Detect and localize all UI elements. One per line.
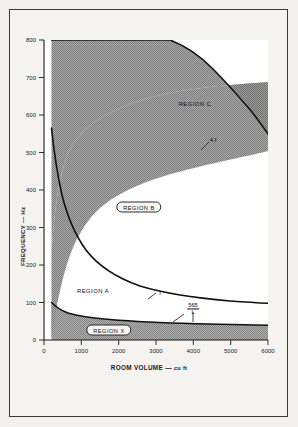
curve-annotation-565-over-L: 565 L	[187, 302, 199, 315]
xtick-label-3000: 3000	[149, 348, 162, 354]
y-axis-ticks	[39, 40, 44, 340]
ytick-label-0: 0	[18, 337, 36, 343]
xtick-label-2000: 2000	[112, 348, 125, 354]
ytick-label-100: 100	[18, 300, 36, 306]
xtick-label-5000: 5000	[224, 348, 237, 354]
curve-annotation-f: f	[159, 290, 161, 296]
ytick-label-800: 800	[18, 37, 36, 43]
x-axis-ticks	[44, 340, 268, 345]
y-axis-title-wrapper: FREQUENCY — Hz	[6, 160, 20, 270]
region-label-c: REGION C	[179, 101, 212, 107]
x-axis-title-unit: cu ft	[174, 365, 187, 371]
curve-annotation-4f: 4 f	[210, 137, 217, 143]
figure-container: 800 700 600 500 400 300 200 100 0 0 1000…	[0, 0, 298, 427]
chart-plot-svg	[0, 0, 298, 427]
xtick-label-6000: 6000	[261, 348, 274, 354]
xtick-label-4000: 4000	[187, 348, 200, 354]
xtick-label-0: 0	[42, 348, 45, 354]
fraction-numerator: 565	[187, 302, 199, 309]
x-axis-title-main: ROOM VOLUME —	[111, 364, 174, 371]
ytick-label-500: 500	[18, 150, 36, 156]
x-axis-title: ROOM VOLUME — cu ft	[0, 364, 298, 371]
region-label-b: REGION B	[116, 202, 161, 213]
ytick-label-600: 600	[18, 112, 36, 118]
region-label-a: REGION A	[77, 288, 109, 294]
y-axis-title: FREQUENCY — Hz	[19, 207, 26, 266]
ytick-label-700: 700	[18, 75, 36, 81]
ytick-label-400: 400	[18, 187, 36, 193]
fraction-denominator: L	[187, 310, 199, 316]
region-label-x: REGION X	[86, 325, 131, 336]
xtick-label-1000: 1000	[75, 348, 88, 354]
